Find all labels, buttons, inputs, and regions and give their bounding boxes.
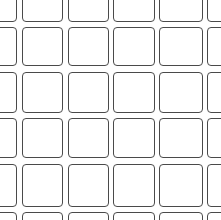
- grid-tile: [113, 118, 155, 158]
- grid-tile: [0, 27, 17, 66]
- grid-tile: [159, 212, 203, 220]
- grid-tile: [159, 72, 203, 113]
- grid-tile: [0, 72, 17, 113]
- grid-tile: [0, 118, 17, 158]
- grid-tile: [22, 0, 63, 22]
- grid-tile: [159, 118, 203, 158]
- grid-tile: [207, 212, 221, 220]
- grid-tile: [159, 0, 203, 22]
- grid-tile: [68, 164, 109, 207]
- grid-tile: [22, 72, 63, 113]
- grid-tile: [207, 0, 221, 22]
- grid-tile: [68, 0, 109, 22]
- grid-tile: [113, 164, 155, 207]
- grid-tile: [22, 164, 63, 207]
- grid-tile: [207, 72, 221, 113]
- grid-tile: [68, 72, 109, 113]
- grid-tile: [0, 0, 17, 22]
- grid-tile: [113, 27, 155, 66]
- grid-tile: [207, 27, 221, 66]
- tile-grid: [0, 0, 221, 220]
- grid-tile: [0, 164, 17, 207]
- grid-tile: [68, 27, 109, 66]
- grid-tile: [113, 0, 155, 22]
- grid-tile: [113, 72, 155, 113]
- grid-tile: [159, 164, 203, 207]
- grid-tile: [22, 118, 63, 158]
- grid-tile: [68, 118, 109, 158]
- grid-tile: [159, 27, 203, 66]
- grid-tile: [0, 212, 17, 220]
- grid-tile: [207, 164, 221, 207]
- grid-tile: [22, 27, 63, 66]
- grid-tile: [22, 212, 63, 220]
- grid-tile: [113, 212, 155, 220]
- grid-tile: [207, 118, 221, 158]
- grid-tile: [68, 212, 109, 220]
